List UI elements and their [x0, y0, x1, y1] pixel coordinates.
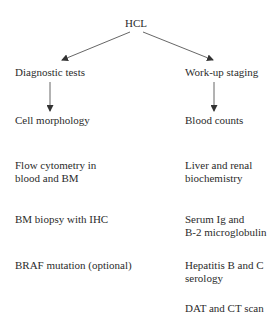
workup-item-hepatitis-line1: Hepatitis B and C	[185, 259, 264, 272]
workup-item-hepatitis-line2: serology	[185, 272, 223, 285]
arrow-hcl-to-workup	[143, 32, 213, 60]
workup-item-liver-renal-line2: biochemistry	[185, 172, 242, 185]
arrow-hcl-to-diagnostic	[62, 32, 130, 60]
diagnostic-item-flow-cytometry-line1: Flow cytometry in	[15, 159, 96, 172]
branch-workup-staging: Work-up staging	[185, 66, 258, 79]
workup-item-serum-ig-line2: B-2 microglobulin	[185, 226, 267, 239]
workup-item-dat-ct-scan: DAT and CT scan	[185, 302, 264, 315]
diagnostic-item-bm-biopsy: BM biopsy with IHC	[15, 213, 108, 226]
root-node-hcl: HCL	[125, 17, 147, 30]
workup-item-liver-renal-line1: Liver and renal	[185, 159, 252, 172]
diagnostic-item-braf-mutation: BRAF mutation (optional)	[15, 259, 132, 272]
workup-item-serum-ig-line1: Serum Ig and	[185, 213, 244, 226]
diagnostic-item-flow-cytometry-line2: blood and BM	[15, 172, 79, 185]
branch-diagnostic-tests: Diagnostic tests	[15, 66, 85, 79]
diagnostic-item-cell-morphology: Cell morphology	[15, 114, 90, 127]
workup-item-blood-counts: Blood counts	[185, 114, 243, 127]
